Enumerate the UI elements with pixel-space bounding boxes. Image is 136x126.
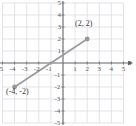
graph-canvas xyxy=(0,0,136,126)
x-tick-label: 4 xyxy=(110,66,114,73)
y-tick-label: 4 xyxy=(58,12,62,19)
y-tick-label: -5 xyxy=(54,120,60,126)
endpoint-marker xyxy=(85,37,90,42)
y-tick-label: -4 xyxy=(54,108,60,115)
point-label-upper: (2, 2) xyxy=(75,20,92,28)
x-tick-label: 2 xyxy=(85,66,89,73)
x-axis-label: x xyxy=(128,59,131,67)
y-tick-label: 1 xyxy=(58,48,62,55)
x-tick-label: 1 xyxy=(73,66,77,73)
x-tick-label: -4 xyxy=(10,66,16,73)
axes xyxy=(0,1,133,125)
x-tick-label: -2 xyxy=(34,66,40,73)
coordinate-plane-figure: -5-4-3-2-112345 54321-1-2-3-4-5 x (2, 2)… xyxy=(0,0,136,126)
x-tick-label: -5 xyxy=(0,66,3,73)
y-tick-label: -1 xyxy=(54,72,60,79)
point-label-lower: (-4, -2) xyxy=(6,88,29,96)
y-tick-label: 2 xyxy=(58,36,62,43)
y-tick-label: 5 xyxy=(58,0,62,7)
x-tick-label: -1 xyxy=(46,66,52,73)
y-tick-label: 3 xyxy=(58,24,62,31)
x-tick-label: -3 xyxy=(22,66,28,73)
x-tick-label: 3 xyxy=(98,66,102,73)
y-tick-label: -2 xyxy=(54,84,60,91)
x-tick-label: 5 xyxy=(122,66,126,73)
y-tick-label: -3 xyxy=(54,96,60,103)
